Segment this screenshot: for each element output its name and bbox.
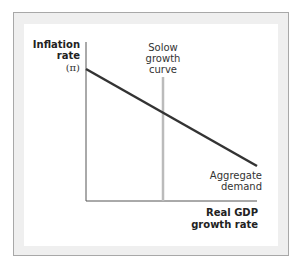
solow-label-line1: Solow (133, 42, 193, 53)
x-axis-label-line2: growth rate (182, 219, 258, 230)
solow-label-line2: growth (133, 53, 193, 64)
ad-label-line2: demand (192, 181, 262, 192)
aggregate-demand-curve (86, 69, 257, 166)
y-axis-label-line1: Inflation (20, 39, 80, 50)
ad-label-line1: Aggregate (192, 170, 262, 181)
x-axis-label-line1: Real GDP (182, 207, 258, 218)
y-axis-label-symbol: (π) (20, 62, 80, 73)
y-axis-label-line2: rate (20, 50, 80, 61)
solow-label-line3: curve (133, 64, 193, 75)
